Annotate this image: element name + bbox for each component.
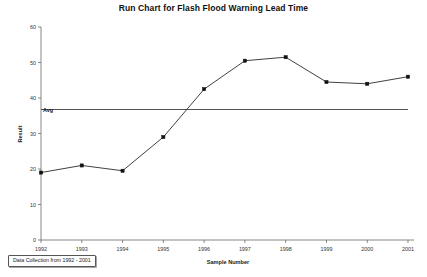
x-tick-label: 1997 [239,246,251,252]
x-axis-ticks: 1992199319941995199619971998199920002001 [35,240,414,252]
average-line-label: Avg [43,107,53,113]
x-tick-label: 1998 [280,246,292,252]
x-tick-label: 1993 [76,246,88,252]
y-tick-label: 20 [30,166,36,172]
y-tick-label: 0 [33,237,36,243]
data-point-markers [39,56,409,175]
y-axis-ticks: 0102030405060 [30,24,41,243]
x-tick-label: 1996 [198,246,210,252]
x-tick-label: 1994 [117,246,129,252]
x-tick-label: 2001 [402,246,414,252]
y-tick-label: 30 [30,131,36,137]
footnote-annotation: Data Collection from 1992 - 2001 [8,255,96,267]
data-point-marker [121,169,124,172]
y-tick-label: 50 [30,60,36,66]
x-tick-label: 1992 [35,246,47,252]
x-tick-label: 1995 [157,246,169,252]
x-tick-label: 2000 [361,246,373,252]
y-tick-label: 10 [30,202,36,208]
data-point-marker [284,56,287,59]
y-tick-label: 40 [30,95,36,101]
data-point-marker [406,75,409,78]
data-point-marker [366,82,369,85]
x-tick-label: 1999 [320,246,332,252]
data-point-marker [325,80,328,83]
x-axis-title: Sample Number [207,259,250,265]
data-point-marker [39,171,42,174]
data-point-marker [203,88,206,91]
average-reference-line: Avg [41,107,408,113]
data-point-marker [80,164,83,167]
y-tick-label: 60 [30,24,36,30]
data-series-line [41,57,408,172]
run-chart: Run Chart for Flash Flood Warning Lead T… [0,0,427,277]
y-axis-title: Result [17,125,23,142]
data-point-marker [162,135,165,138]
chart-plot-area: 0102030405060 19921993199419951996199719… [0,0,427,277]
data-point-marker [243,59,246,62]
